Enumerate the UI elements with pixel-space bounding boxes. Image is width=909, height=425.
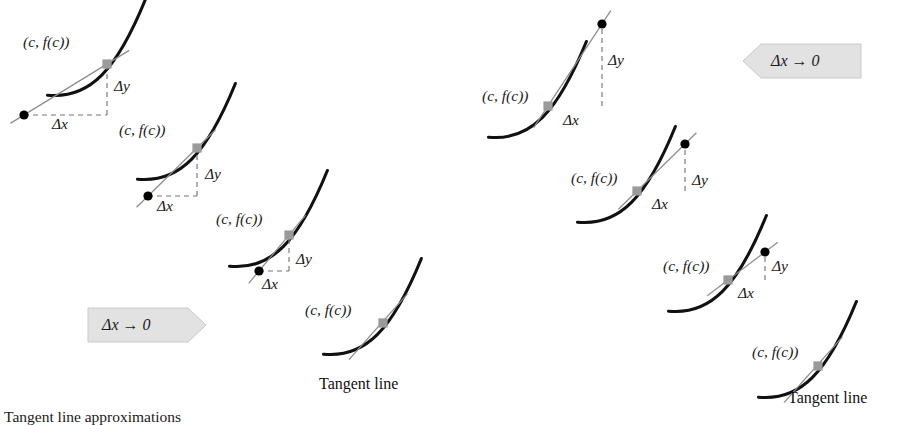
point-label: (c, f(c)) [663,258,709,274]
delta-x-label: Δx [262,276,278,292]
limit-banner-label: Δx → 0 [771,53,820,69]
delta-y-label: Δy [772,258,788,274]
delta-y-label: Δy [205,166,221,182]
moving-point-marker [680,139,689,148]
moving-point-marker [143,191,152,200]
moving-point-marker [760,247,769,256]
point-label: (c, f(c)) [752,344,798,360]
delta-x-label: Δx [52,116,68,132]
point-label: (c, f(c)) [216,211,262,227]
point-label: (c, f(c)) [571,170,617,186]
delta-y-label: Δy [296,251,312,267]
delta-x-label: Δx [738,285,754,301]
point-label: (c, f(c)) [23,34,69,50]
fixed-point-marker [284,230,293,239]
limit-banner-label: Δx → 0 [102,317,151,333]
curves-layer [10,0,861,403]
fixed-point-marker [723,275,732,284]
delta-x-label: Δx [563,112,579,128]
moving-point-marker [19,110,28,119]
point-label: (c, f(c)) [305,302,351,318]
fixed-point-marker [102,59,111,68]
point-label: (c, f(c)) [482,88,528,104]
delta-y-label: Δy [608,52,624,68]
point-label: (c, f(c)) [119,122,165,138]
delta-y-label: Δy [114,78,130,94]
fixed-point-marker [632,186,641,195]
fixed-point-marker [543,101,552,110]
delta-x-label: Δx [157,198,173,214]
fixed-point-marker [378,318,387,327]
tangent-line-label: Tangent line [788,390,867,406]
tangent-line-label: Tangent line [319,376,398,392]
delta-x-label: Δx [652,196,668,212]
figure-caption: Tangent line approximations [4,409,181,425]
fixed-point-marker [192,143,201,152]
tangent-line [349,294,407,360]
fixed-point-marker [813,361,822,370]
delta-y-label: Δy [692,172,708,188]
moving-point-marker [597,19,606,28]
